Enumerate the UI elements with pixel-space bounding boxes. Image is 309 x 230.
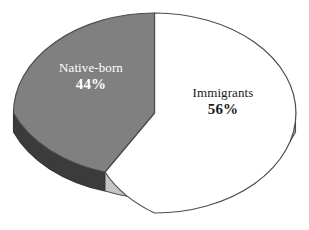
pie-chart-graphic bbox=[0, 0, 309, 230]
pie-chart-container: Native-born 44% Immigrants 56% bbox=[0, 0, 309, 230]
